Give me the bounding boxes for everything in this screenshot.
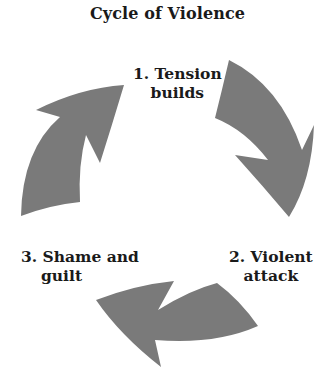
stage-2-line2: attack bbox=[229, 266, 313, 285]
shame-to-tension-arrow bbox=[21, 85, 124, 216]
tension-to-attack-arrow bbox=[215, 60, 314, 217]
attack-to-shame-arrow bbox=[96, 281, 258, 367]
stage-2-label: 2. Violent attack bbox=[229, 247, 313, 285]
stage-3-line1: 3. Shame and bbox=[21, 247, 139, 266]
stage-3-line2: guilt bbox=[21, 266, 139, 285]
stage-2-line1: 2. Violent bbox=[229, 247, 313, 266]
stage-1-label: 1. Tension builds bbox=[133, 64, 222, 102]
cycle-arrows bbox=[0, 0, 335, 392]
stage-1-line1: 1. Tension bbox=[133, 64, 222, 83]
stage-3-label: 3. Shame and guilt bbox=[21, 247, 139, 285]
stage-1-line2: builds bbox=[133, 83, 222, 102]
